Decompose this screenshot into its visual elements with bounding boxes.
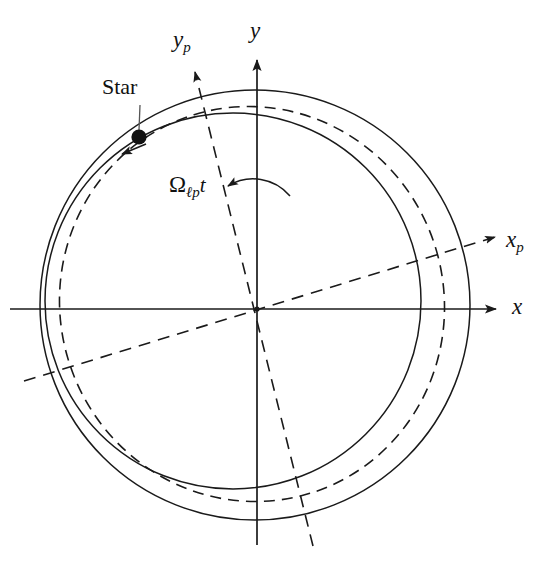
star-label: Star [102, 76, 137, 98]
precession-angle-label: Ωℓpt [169, 173, 206, 196]
inner-orbit-curve [45, 113, 421, 489]
outer-orbit-curve [40, 90, 470, 520]
omega-subscript: ℓp [186, 184, 200, 200]
yp-axis-label-base: y [173, 27, 183, 52]
omega-symbol: Ω [169, 172, 186, 197]
origin-marker [254, 306, 259, 311]
coordinate-axes [10, 60, 496, 546]
xp-axis-label: xp [506, 228, 524, 251]
star-marker [131, 129, 146, 144]
yp-axis-label-subscript: p [183, 39, 191, 55]
figure-canvas: Star x y xp yp Ωℓpt [0, 0, 550, 575]
xp-axis-label-base: x [506, 227, 516, 252]
x-axis-label: x [512, 295, 522, 318]
star-leader-line [139, 105, 140, 130]
precession-arc-arrow [228, 179, 290, 196]
omega-time-variable: t [200, 173, 206, 197]
xp-axis-label-subscript: p [516, 239, 524, 255]
orbit-diagram-svg [0, 0, 550, 575]
precession-angle-annotation [228, 179, 290, 196]
yp-axis-label: yp [173, 28, 191, 51]
y-axis-label: y [250, 19, 260, 42]
